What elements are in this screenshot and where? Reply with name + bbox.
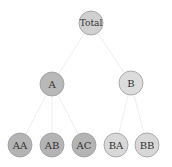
- node-ba: BA: [104, 133, 128, 157]
- node-b: B: [119, 71, 143, 95]
- node-total: Total: [79, 11, 103, 35]
- node-ab: AB: [40, 133, 64, 157]
- node-aa-label: AA: [12, 140, 28, 151]
- node-b-label: B: [127, 78, 134, 89]
- node-ab-label: AB: [44, 140, 60, 151]
- node-a-label: A: [47, 79, 56, 90]
- node-aa: AA: [8, 133, 32, 157]
- tree-diagram: Total A B AA AB AC BA BB: [0, 0, 172, 167]
- node-ac: AC: [72, 133, 96, 157]
- node-a: A: [40, 72, 64, 96]
- node-total-label: Total: [80, 18, 103, 28]
- node-bb-label: BB: [140, 140, 155, 151]
- node-ac-label: AC: [76, 140, 92, 151]
- node-bb: BB: [135, 133, 159, 157]
- node-ba-label: BA: [109, 140, 124, 151]
